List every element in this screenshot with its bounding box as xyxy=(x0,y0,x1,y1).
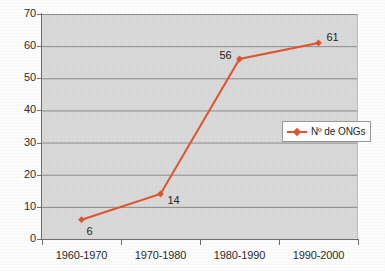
y-axis-label-70: 70 xyxy=(2,8,36,19)
line-chart: 010203040506070 1960-19701970-19801980-1… xyxy=(0,0,385,271)
x-axis-label-1960-1970: 1960-1970 xyxy=(42,249,122,261)
y-axis-tick xyxy=(37,175,42,176)
y-axis-tick xyxy=(37,14,42,15)
x-axis-tick xyxy=(121,240,122,245)
data-label-14: 14 xyxy=(168,195,180,206)
x-axis-tick xyxy=(200,240,201,245)
x-axis-label-1980-1990: 1980-1990 xyxy=(200,249,280,261)
y-axis-label-30: 30 xyxy=(2,137,36,148)
y-axis-tick xyxy=(37,143,42,144)
y-axis-label-20: 20 xyxy=(2,169,36,180)
legend-label: Nº de ONGs xyxy=(311,126,365,137)
y-axis-label-50: 50 xyxy=(2,72,36,83)
data-label-6: 6 xyxy=(87,226,93,237)
x-axis-tick xyxy=(358,240,359,245)
x-axis-label-1970-1980: 1970-1980 xyxy=(121,249,201,261)
y-axis-label-60: 60 xyxy=(2,40,36,51)
y-axis-label-40: 40 xyxy=(2,104,36,115)
x-axis-tick xyxy=(279,240,280,245)
x-axis-label-1990-2000: 1990-2000 xyxy=(279,249,359,261)
legend: Nº de ONGs xyxy=(282,121,371,142)
y-axis-tick xyxy=(37,110,42,111)
y-axis-tick xyxy=(37,46,42,47)
y-axis-tick xyxy=(37,207,42,208)
y-axis-label-10: 10 xyxy=(2,201,36,212)
data-label-61: 61 xyxy=(327,32,339,43)
data-label-56: 56 xyxy=(220,50,232,61)
x-axis-tick xyxy=(42,240,43,245)
legend-marker-icon xyxy=(287,127,307,136)
y-axis xyxy=(41,13,42,240)
y-axis-tick xyxy=(37,78,42,79)
y-axis-label-0: 0 xyxy=(2,233,36,244)
